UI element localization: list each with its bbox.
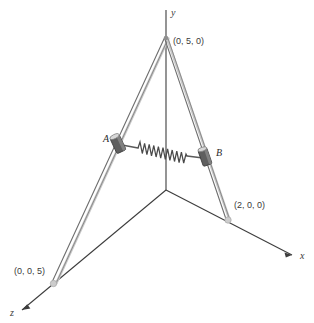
y-axis-label: y: [170, 7, 176, 18]
x-axis-label: x: [299, 250, 305, 261]
coordinate-diagram-svg: y x z (0, 5, 0) (2, 0, 0) (0, 0, 5) A B: [0, 0, 314, 323]
z-axis-arrowhead: [22, 304, 30, 310]
spring-coil: [138, 142, 187, 163]
diagram-canvas: y x z (0, 5, 0) (2, 0, 0) (0, 0, 5) A B: [0, 0, 314, 323]
strut-z-edge-inner: [56, 39, 168, 284]
strut-x-edge-outer: [165, 38, 227, 220]
strut-z-edge-outer: [51, 39, 164, 284]
collar-a-label: A: [102, 133, 110, 144]
spring-assembly: [122, 142, 203, 163]
z-strut-base-coordinate-label: (0, 0, 5): [14, 266, 45, 276]
apex-coordinate-label: (0, 5, 0): [173, 36, 204, 46]
collar-b[interactable]: [197, 146, 212, 167]
collar-b-label: B: [216, 147, 222, 158]
apex-joint: [164, 36, 169, 41]
z-axis-label: z: [9, 307, 14, 318]
strut-x-edge-inner: [168, 39, 230, 221]
x-strut-base-coordinate-label: (2, 0, 0): [234, 200, 265, 210]
strut-x-base-joint: [225, 217, 231, 223]
z-axis-line: [22, 190, 166, 310]
strut-z-base-joint: [50, 280, 56, 286]
